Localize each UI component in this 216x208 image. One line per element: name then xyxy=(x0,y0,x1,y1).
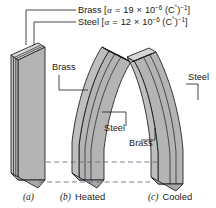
steel-base: 10 xyxy=(142,17,152,27)
steel-unit-open: (C xyxy=(162,17,172,27)
brass-material-label: Brass xyxy=(78,5,102,15)
brass-equals: = xyxy=(115,5,120,15)
brass-callout-text: Brass[α=19×10−6(C°)−1] xyxy=(78,4,190,15)
brass-times: × xyxy=(137,5,142,15)
steel-callout-text: Steel[α=12×10−6(C°)−1] xyxy=(78,16,188,27)
brass-unit-open: (C xyxy=(165,5,175,15)
steel-bracket-close: ] xyxy=(185,17,188,27)
steel-alpha-symbol: α xyxy=(105,17,110,27)
steel-exponent: −6 xyxy=(153,16,161,23)
steel-times: × xyxy=(134,17,139,27)
svg-text:Steel[α=12×10−6(C°)−1]: Steel[α=12×10−6(C°)−1] xyxy=(78,16,188,27)
brass-value: 19 xyxy=(123,5,133,15)
figure-canvas: .s { stroke:#1a1a1a; stroke-width:0.85; … xyxy=(0,0,216,208)
steel-equals: = xyxy=(112,17,117,27)
brass-base: 10 xyxy=(145,5,155,15)
caption-b: (b)Heated xyxy=(60,191,105,203)
brass-exponent: −6 xyxy=(155,4,163,11)
bar-b-heated xyxy=(72,47,131,188)
label-c-steel: Steel xyxy=(188,72,209,82)
caption-c-letter: (c) xyxy=(148,192,158,203)
bar-a-back-face xyxy=(11,55,18,180)
svg-text:(a): (a) xyxy=(23,192,34,203)
caption-c: (c)Cooled xyxy=(148,191,192,203)
caption-c-text: Cooled xyxy=(162,191,192,202)
bimetallic-strip-figure: .s { stroke:#1a1a1a; stroke-width:0.85; … xyxy=(0,0,216,208)
bar-a-straight xyxy=(11,43,45,188)
brass-callout-leader xyxy=(26,10,76,45)
steel-value: 12 xyxy=(121,17,131,27)
brass-bracket-close: ] xyxy=(188,5,191,15)
label-b-brass: Brass xyxy=(52,62,76,72)
bar-c-cooled xyxy=(127,48,183,191)
svg-text:(c)Cooled: (c)Cooled xyxy=(148,191,192,203)
c-steel-leader xyxy=(186,84,198,100)
caption-a-letter: (a) xyxy=(23,192,34,203)
svg-text:Brass[α=19×10−6(C°)−1]: Brass[α=19×10−6(C°)−1] xyxy=(78,4,190,15)
bar-b-front-face xyxy=(79,51,131,180)
steel-material-label: Steel xyxy=(78,17,99,27)
caption-a: (a) xyxy=(23,192,34,203)
svg-text:(b)Heated: (b)Heated xyxy=(60,191,105,203)
brass-alpha-symbol: α xyxy=(107,5,112,15)
label-c-brass: Brass xyxy=(129,138,153,148)
steel-callout-leader xyxy=(34,22,76,45)
bar-a-front-face xyxy=(18,47,45,180)
label-b-steel: Steel xyxy=(104,123,125,133)
caption-b-letter: (b) xyxy=(60,192,71,203)
caption-b-text: Heated xyxy=(75,191,105,202)
